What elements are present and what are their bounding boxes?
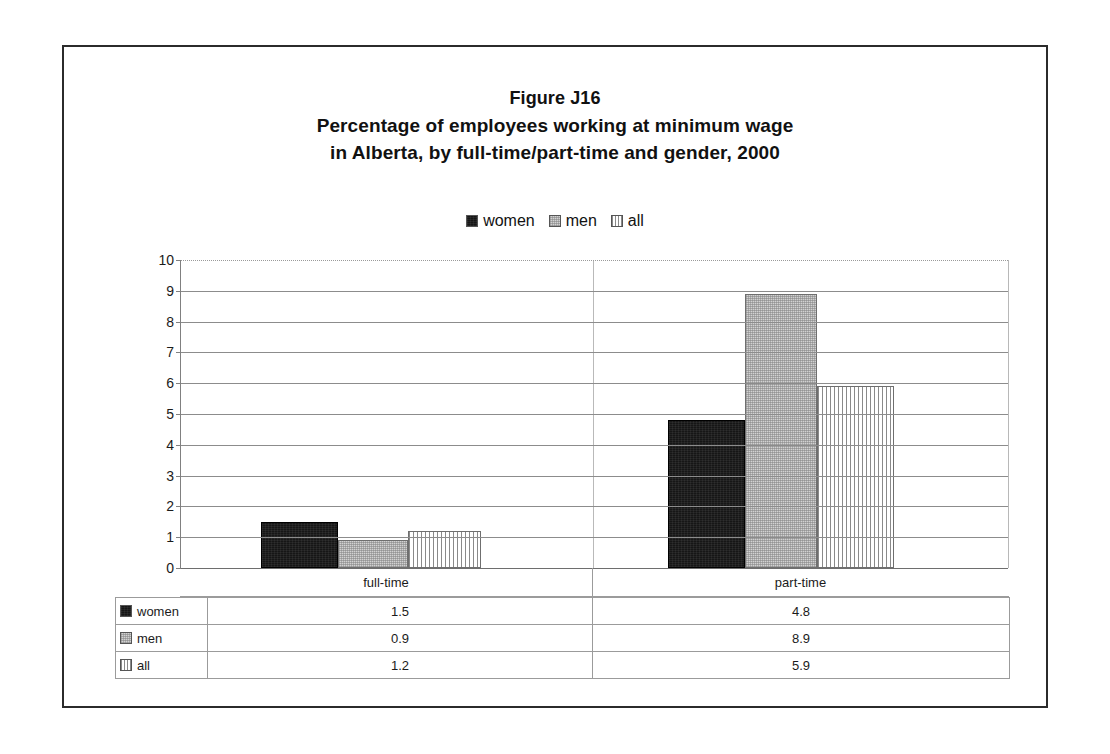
- ytick-mark-9: [176, 291, 181, 292]
- ytick-label-9: 9: [166, 283, 174, 299]
- ytick-label-8: 8: [166, 314, 174, 330]
- table-cell-all-part-time: 5.9: [593, 652, 1010, 679]
- ytick-label-1: 1: [166, 529, 174, 545]
- category-label-row: full-time part-time: [180, 568, 1009, 597]
- bar-part-time-women: [668, 420, 745, 568]
- table-series-label-all: all: [137, 658, 150, 673]
- table-cell-women-part-time: 4.8: [593, 598, 1010, 625]
- gridline-7: [181, 352, 1008, 353]
- ytick-label-6: 6: [166, 375, 174, 391]
- table-cell-women-full-time: 1.5: [208, 598, 593, 625]
- ytick-label-10: 10: [158, 252, 174, 268]
- ytick-mark-10: [176, 260, 181, 261]
- gridline-4: [181, 445, 1008, 446]
- table-cell-all-full-time: 1.2: [208, 652, 593, 679]
- gridline-1: [181, 537, 1008, 538]
- table-series-cell-women: women: [116, 598, 208, 625]
- gridline-6: [181, 383, 1008, 384]
- category-label-full-time: full-time: [180, 568, 592, 596]
- ytick-label-0: 0: [166, 560, 174, 576]
- gridline-8: [181, 322, 1008, 323]
- ytick-mark-1: [176, 537, 181, 538]
- table-swatch-women-icon: [120, 605, 132, 617]
- table-series-label-men: men: [137, 631, 162, 646]
- ytick-mark-2: [176, 506, 181, 507]
- plot-area: 109876543210: [180, 260, 1009, 568]
- table-cell-men-full-time: 0.9: [208, 625, 593, 652]
- ytick-mark-7: [176, 352, 181, 353]
- category-label-part-time: part-time: [592, 568, 1009, 596]
- table-series-cell-all: all: [116, 652, 208, 679]
- table-swatch-all-icon: [120, 659, 132, 671]
- ytick-mark-4: [176, 445, 181, 446]
- ytick-mark-6: [176, 383, 181, 384]
- table-cell-men-part-time: 8.9: [593, 625, 1010, 652]
- figure-frame: Figure J16 Percentage of employees worki…: [62, 45, 1048, 708]
- ytick-label-3: 3: [166, 468, 174, 484]
- ytick-mark-5: [176, 414, 181, 415]
- gridline-3: [181, 476, 1008, 477]
- bar-full-time-men: [338, 540, 408, 568]
- gridline-9: [181, 291, 1008, 292]
- ytick-label-4: 4: [166, 437, 174, 453]
- data-table: women 1.5 4.8 men 0.9 8.9: [115, 597, 1010, 679]
- gridline-2: [181, 506, 1008, 507]
- ytick-label-2: 2: [166, 498, 174, 514]
- bar-part-time-men: [745, 294, 817, 568]
- table-series-cell-men: men: [116, 625, 208, 652]
- table-row: men 0.9 8.9: [116, 625, 1010, 652]
- table-series-label-women: women: [137, 604, 179, 619]
- gridline-5: [181, 414, 1008, 415]
- bar-full-time-women: [261, 522, 338, 568]
- table-swatch-men-icon: [120, 632, 132, 644]
- ytick-label-5: 5: [166, 406, 174, 422]
- table-row: women 1.5 4.8: [116, 598, 1010, 625]
- ytick-label-7: 7: [166, 344, 174, 360]
- ytick-mark-8: [176, 322, 181, 323]
- ytick-mark-3: [176, 476, 181, 477]
- gridline-10: [181, 260, 1008, 261]
- table-row: all 1.2 5.9: [116, 652, 1010, 679]
